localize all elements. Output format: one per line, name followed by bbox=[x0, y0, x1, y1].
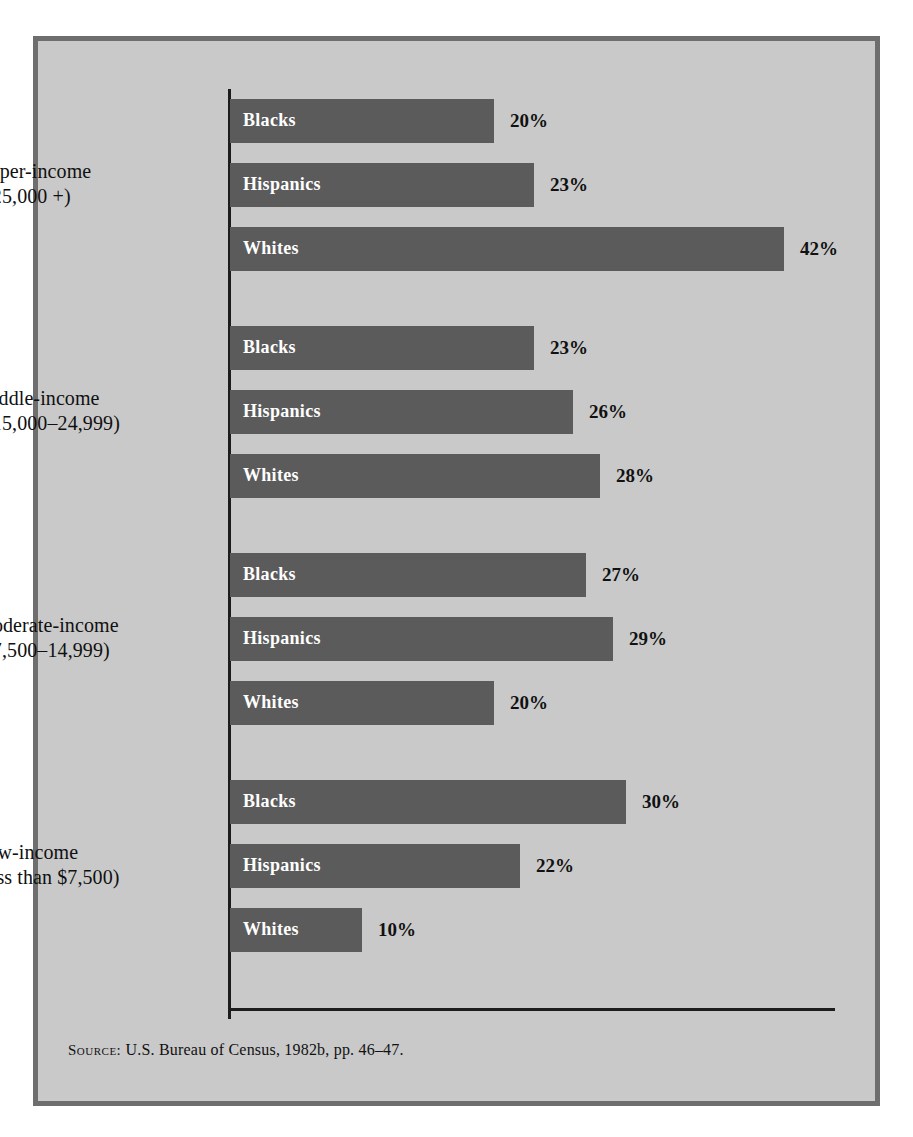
bar-row: Whites10% bbox=[230, 908, 875, 952]
bar-row: Blacks20% bbox=[230, 99, 875, 143]
bar-whites: Whites bbox=[230, 227, 784, 271]
bar-series-label: Whites bbox=[243, 919, 299, 940]
bar-hispanics: Hispanics bbox=[230, 844, 520, 888]
income-group-label-line2: ($7,500–14,999) bbox=[0, 638, 215, 663]
income-group-label-line1: Middle-income bbox=[0, 386, 215, 411]
bar-row: Hispanics22% bbox=[230, 844, 875, 888]
income-group-label: Upper-income($25,000 +) bbox=[0, 159, 215, 209]
bar-row: Whites42% bbox=[230, 227, 875, 271]
bar-row: Blacks23% bbox=[230, 326, 875, 370]
bar-value-label: 23% bbox=[550, 174, 588, 196]
bar-series-label: Hispanics bbox=[243, 628, 321, 649]
bar-chart: Upper-income($25,000 +)Blacks20%Hispanic… bbox=[38, 41, 875, 1101]
income-group-label-line1: Moderate-income bbox=[0, 613, 215, 638]
bar-series-label: Blacks bbox=[243, 337, 296, 358]
bar-value-label: 27% bbox=[602, 564, 640, 586]
income-group: Moderate-income($7,500–14,999)Blacks27%H… bbox=[38, 553, 875, 725]
figure-background: Upper-income($25,000 +)Blacks20%Hispanic… bbox=[38, 41, 875, 1101]
source-label: Source: bbox=[68, 1042, 121, 1058]
bar-row: Blacks30% bbox=[230, 780, 875, 824]
bar-hispanics: Hispanics bbox=[230, 163, 534, 207]
bar-series-label: Hispanics bbox=[243, 855, 321, 876]
bar-value-label: 42% bbox=[800, 238, 838, 260]
bar-group: Blacks30%Hispanics22%Whites10% bbox=[230, 780, 875, 952]
bar-hispanics: Hispanics bbox=[230, 617, 613, 661]
bar-value-label: 26% bbox=[589, 401, 627, 423]
source-note: Source: U.S. Bureau of Census, 1982b, pp… bbox=[68, 1041, 404, 1059]
bar-value-label: 10% bbox=[378, 919, 416, 941]
bar-value-label: 28% bbox=[616, 465, 654, 487]
bar-value-label: 20% bbox=[510, 110, 548, 132]
income-group: Middle-income($15,000–24,999)Blacks23%Hi… bbox=[38, 326, 875, 498]
bar-value-label: 23% bbox=[550, 337, 588, 359]
bar-row: Hispanics26% bbox=[230, 390, 875, 434]
bar-group: Blacks27%Hispanics29%Whites20% bbox=[230, 553, 875, 725]
bar-row: Hispanics23% bbox=[230, 163, 875, 207]
income-group-label-line2: (less than $7,500) bbox=[0, 865, 215, 890]
bar-series-label: Hispanics bbox=[243, 401, 321, 422]
bar-series-label: Blacks bbox=[243, 791, 296, 812]
bar-value-label: 22% bbox=[536, 855, 574, 877]
bar-row: Whites28% bbox=[230, 454, 875, 498]
x-axis-line bbox=[228, 1008, 835, 1011]
income-group-label-line1: Upper-income bbox=[0, 159, 215, 184]
bar-series-label: Blacks bbox=[243, 564, 296, 585]
bar-whites: Whites bbox=[230, 454, 600, 498]
bar-series-label: Hispanics bbox=[243, 174, 321, 195]
income-group-label: Middle-income($15,000–24,999) bbox=[0, 386, 215, 436]
bar-whites: Whites bbox=[230, 908, 362, 952]
income-group-label-line1: Low-income bbox=[0, 840, 215, 865]
bar-group: Blacks20%Hispanics23%Whites42% bbox=[230, 99, 875, 271]
income-group-label: Low-income(less than $7,500) bbox=[0, 840, 215, 890]
income-group: Low-income(less than $7,500)Blacks30%His… bbox=[38, 780, 875, 952]
income-group-label-line2: ($25,000 +) bbox=[0, 184, 215, 209]
bar-series-label: Blacks bbox=[243, 110, 296, 131]
income-group-label: Moderate-income($7,500–14,999) bbox=[0, 613, 215, 663]
income-group-label-line2: ($15,000–24,999) bbox=[0, 411, 215, 436]
figure-frame: Upper-income($25,000 +)Blacks20%Hispanic… bbox=[33, 36, 880, 1106]
bar-group: Blacks23%Hispanics26%Whites28% bbox=[230, 326, 875, 498]
bar-whites: Whites bbox=[230, 681, 494, 725]
source-text: U.S. Bureau of Census, 1982b, pp. 46–47. bbox=[126, 1041, 404, 1058]
bar-value-label: 29% bbox=[629, 628, 667, 650]
bar-value-label: 30% bbox=[642, 791, 680, 813]
bar-value-label: 20% bbox=[510, 692, 548, 714]
bar-series-label: Whites bbox=[243, 238, 299, 259]
bar-row: Blacks27% bbox=[230, 553, 875, 597]
bar-hispanics: Hispanics bbox=[230, 390, 573, 434]
bar-row: Whites20% bbox=[230, 681, 875, 725]
bar-blacks: Blacks bbox=[230, 553, 586, 597]
income-group: Upper-income($25,000 +)Blacks20%Hispanic… bbox=[38, 99, 875, 271]
bar-series-label: Whites bbox=[243, 692, 299, 713]
bar-blacks: Blacks bbox=[230, 780, 626, 824]
bar-series-label: Whites bbox=[243, 465, 299, 486]
bar-blacks: Blacks bbox=[230, 326, 534, 370]
bar-row: Hispanics29% bbox=[230, 617, 875, 661]
bar-blacks: Blacks bbox=[230, 99, 494, 143]
